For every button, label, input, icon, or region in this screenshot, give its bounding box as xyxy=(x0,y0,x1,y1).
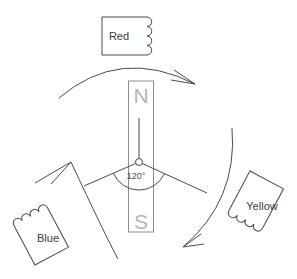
rotation-arrow-left-head xyxy=(35,162,71,184)
rotation-arrow-top-head xyxy=(171,70,195,84)
rotation-arrow-top-arc xyxy=(59,68,195,98)
rotating-field-diagram: N S 120° xyxy=(0,0,297,279)
rotation-arrow-top xyxy=(59,68,195,98)
magnet-north-label: N xyxy=(133,84,148,107)
angle-label: 120° xyxy=(127,171,146,181)
diagram-canvas: N S 120° xyxy=(0,0,297,279)
rotation-arrow-right-head xyxy=(183,234,204,247)
coil-yellow-label: Yellow xyxy=(246,200,277,212)
rotation-arrow-right-arc xyxy=(183,128,233,247)
rotation-arrow-left-arc xyxy=(71,162,118,259)
pivot-circle xyxy=(136,159,143,166)
pivot-assembly xyxy=(84,118,207,193)
coil-blue-label: Blue xyxy=(37,232,59,244)
magnet-south-label: S xyxy=(134,210,148,233)
coil-red-label: Red xyxy=(109,30,129,42)
rotation-arrow-right xyxy=(183,128,233,247)
